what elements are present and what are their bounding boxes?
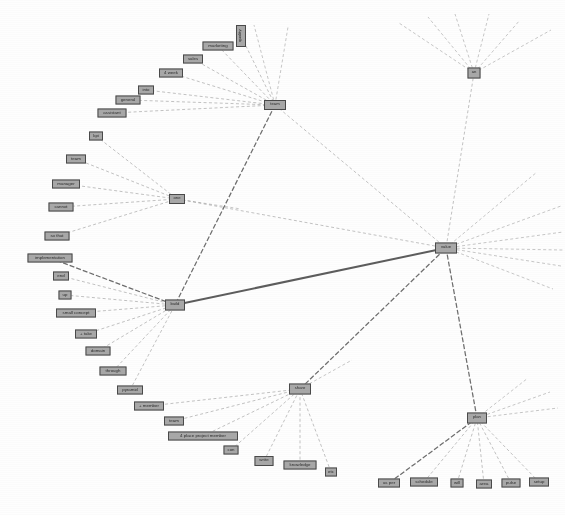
graph-node-area[interactable]: area — [476, 480, 492, 489]
graph-node-manager[interactable]: manager — [52, 180, 80, 189]
graph-node-value[interactable]: value — [435, 243, 457, 254]
graph-canvas: teamqualitymarketingsales4 weekintogener… — [0, 0, 565, 515]
graph-edge-stub — [177, 199, 241, 209]
graph-edge-stub — [446, 232, 563, 248]
graph-node-knowledge[interactable]: knowledge — [284, 461, 317, 470]
graph-edge — [98, 305, 175, 351]
graph-node-implementation[interactable]: implementation — [28, 254, 73, 263]
graph-node-quality[interactable]: quality — [236, 25, 246, 47]
graph-edge — [149, 389, 300, 406]
graph-edge — [241, 36, 275, 105]
graph-edge-stub — [455, 14, 474, 73]
graph-node-schedule[interactable]: schedule — [410, 478, 438, 487]
graph-edge-stub — [275, 27, 288, 105]
graph-node-plus-take[interactable]: + take — [75, 330, 97, 339]
graph-edge-stub — [446, 206, 561, 248]
graph-node-pyramid[interactable]: pyramid — [117, 386, 143, 395]
graph-node-kpi[interactable]: kpi — [89, 132, 103, 141]
graph-node-share[interactable]: share — [289, 384, 311, 395]
graph-node-team2[interactable]: team — [66, 155, 86, 164]
graph-edge — [457, 418, 477, 483]
graph-edge — [477, 418, 484, 484]
graph-node-con[interactable]: con — [224, 446, 239, 455]
graph-edge — [57, 199, 177, 236]
graph-node-sales[interactable]: sales — [183, 55, 203, 64]
graph-edge-stub — [477, 392, 550, 418]
graph-edge-stub — [428, 17, 474, 73]
graph-node-write[interactable]: write — [255, 456, 274, 466]
graph-node-cannot[interactable]: cannot — [49, 203, 74, 212]
graph-edge — [175, 248, 446, 305]
graph-node-domain[interactable]: domain — [86, 347, 111, 356]
graph-edge — [61, 276, 175, 305]
graph-node-as-per[interactable]: as per — [378, 479, 400, 488]
graph-node-an[interactable]: an — [468, 68, 481, 79]
graph-edge — [477, 418, 539, 482]
graph-edge — [424, 418, 477, 482]
graph-edge-stub — [446, 248, 561, 266]
graph-edge — [203, 389, 300, 436]
graph-edge — [446, 73, 474, 248]
graph-node-assistant[interactable]: assistant — [98, 109, 127, 118]
graph-node-one[interactable]: one — [169, 194, 185, 204]
graph-edge — [389, 418, 477, 483]
graph-edge — [76, 159, 177, 199]
graph-edge — [61, 199, 177, 207]
graph-edge — [275, 105, 446, 248]
graph-edge — [112, 105, 275, 113]
graph-edge-stub — [477, 408, 558, 418]
graph-edge — [130, 305, 175, 390]
graph-node-so-that[interactable]: so that — [45, 232, 70, 241]
graph-edge-stub — [446, 172, 537, 248]
graph-node-through[interactable]: through — [100, 367, 127, 376]
graph-node-plus-member[interactable]: + member — [134, 402, 164, 411]
graph-edge-stub — [446, 248, 563, 250]
graph-node-into[interactable]: into — [138, 86, 154, 95]
graph-edge-stub — [254, 25, 275, 105]
graph-edge — [231, 389, 300, 450]
graph-node-plan[interactable]: plan — [467, 413, 487, 424]
graph-node-team3[interactable]: team — [164, 417, 184, 426]
graph-edge — [175, 105, 275, 305]
graph-node-up[interactable]: up — [59, 291, 72, 300]
graph-edge — [128, 100, 275, 105]
graph-edge — [264, 389, 300, 461]
graph-node-end[interactable]: end — [53, 272, 69, 281]
graph-edge — [177, 199, 446, 248]
graph-edge — [65, 295, 175, 305]
graph-node-general[interactable]: general — [116, 96, 141, 105]
graph-node-small-concept[interactable]: small concept — [56, 309, 96, 318]
graph-edge — [477, 418, 511, 483]
graph-node-team[interactable]: team — [264, 100, 286, 110]
graph-node-marketing[interactable]: marketing — [203, 42, 234, 51]
graph-edge — [446, 248, 477, 418]
graph-node-will[interactable]: will — [451, 479, 464, 488]
graph-edge — [174, 389, 300, 421]
graph-node-4-week[interactable]: 4 week — [159, 69, 183, 78]
graph-edge — [218, 46, 275, 105]
graph-edge — [96, 136, 177, 199]
graph-edge — [300, 248, 446, 389]
graph-edge — [193, 59, 275, 105]
graph-node-pulse[interactable]: pulse — [502, 479, 521, 488]
graph-edge-stub — [446, 248, 553, 289]
graph-node-build[interactable]: build — [165, 300, 185, 311]
graph-node-4-place-project[interactable]: 4 place project member — [168, 432, 238, 441]
graph-edge-stub — [474, 30, 551, 73]
graph-edge-stub — [399, 23, 474, 73]
graph-node-etc[interactable]: etc — [325, 468, 337, 477]
graph-node-setup[interactable]: setup — [529, 478, 549, 487]
